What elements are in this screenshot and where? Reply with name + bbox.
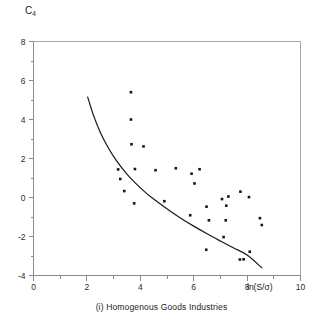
envelope-curve: [88, 97, 262, 268]
y-tick-label: 2: [21, 154, 26, 164]
y-tick-label: -4: [18, 271, 26, 281]
data-point: [225, 204, 228, 207]
data-point: [154, 169, 157, 172]
data-point: [163, 200, 166, 203]
x-tick-label: 10: [296, 282, 306, 292]
y-tick-label: -2: [18, 232, 26, 242]
data-point: [130, 91, 133, 94]
data-point: [248, 250, 251, 253]
data-point: [175, 167, 178, 170]
data-point: [117, 168, 120, 171]
y-tick-label: 8: [21, 37, 26, 47]
x-tick-label: 0: [31, 282, 36, 292]
y-tick-label: 6: [21, 76, 26, 86]
data-point: [259, 217, 262, 220]
chart-figure: ˜C4 0246810-4-202468 ln(S/σ) (i) Homogen…: [0, 0, 323, 327]
x-axis-label: ln(S/σ): [247, 282, 273, 292]
data-point: [134, 168, 137, 171]
data-point: [260, 224, 263, 227]
axis-tick-labels: 0246810-4-202468: [18, 37, 306, 292]
y-tick-label: 4: [21, 115, 26, 125]
data-point: [189, 214, 192, 217]
data-point: [119, 178, 122, 181]
scatter-plot: 0246810-4-202468: [0, 0, 323, 327]
data-point: [190, 172, 193, 175]
data-point: [222, 236, 225, 239]
data-point: [208, 219, 211, 222]
data-point: [193, 182, 196, 185]
data-point: [248, 196, 251, 199]
x-tick-label: 6: [191, 282, 196, 292]
data-point: [221, 198, 224, 201]
figure-caption: (i) Homogenous Goods Industries: [0, 302, 323, 312]
data-point: [130, 143, 133, 146]
data-point: [133, 202, 136, 205]
x-tick-label: 4: [138, 282, 143, 292]
data-point: [205, 205, 208, 208]
axis-ticks: [29, 42, 301, 281]
data-point: [239, 190, 242, 193]
data-point: [142, 145, 145, 148]
data-point: [239, 258, 242, 261]
data-point: [224, 219, 227, 222]
data-point: [130, 118, 133, 121]
plot-frame: [34, 42, 301, 276]
x-tick-label: 2: [85, 282, 90, 292]
data-point: [198, 168, 201, 171]
data-points: [117, 91, 263, 261]
y-tick-label: 0: [21, 193, 26, 203]
fit-curve: [88, 97, 262, 268]
data-point: [227, 195, 230, 198]
data-point: [205, 248, 208, 251]
data-point: [242, 258, 245, 261]
data-point: [123, 190, 126, 193]
